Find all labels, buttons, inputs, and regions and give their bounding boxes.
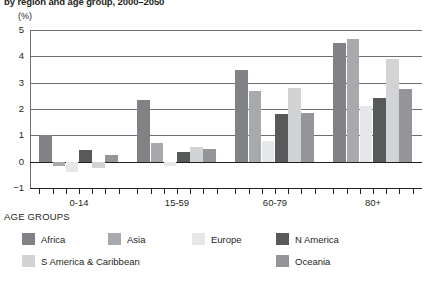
bar-europe-60-79: [262, 141, 275, 162]
x-axis-line: [30, 188, 422, 189]
x-axis-tick: [301, 189, 302, 194]
x-axis-tick: [203, 189, 204, 194]
bar-asia-15-59: [151, 143, 164, 161]
bar-africa-60-79: [235, 70, 248, 162]
legend-swatch-asia: [108, 233, 121, 245]
y-axis-tick-label: 1: [2, 129, 24, 140]
y-axis-tick-label: 5: [2, 24, 24, 35]
x-axis-tick: [288, 189, 289, 194]
x-axis-tick: [39, 189, 40, 194]
x-axis-tick: [66, 189, 67, 194]
bar-europe-80+: [360, 106, 373, 161]
x-axis-tick: [164, 189, 165, 194]
x-axis-tick: [347, 189, 348, 194]
legend-swatch-n_america: [276, 233, 289, 245]
legend-label-oceania: Oceania: [295, 256, 330, 267]
bar-s_america-60-79: [288, 88, 301, 162]
y-axis-tick-label: 2: [2, 103, 24, 114]
legend-label-asia: Asia: [127, 234, 145, 245]
legend-label-africa: Africa: [41, 234, 65, 245]
x-axis-tick: [386, 189, 387, 194]
bar-oceania-15-59: [203, 149, 216, 162]
bar-s_america-0-14: [92, 162, 105, 169]
zero-line: [30, 162, 422, 163]
x-axis-tick: [333, 189, 334, 194]
x-axis-tick: [275, 189, 276, 194]
x-axis-tick: [177, 189, 178, 194]
bar-africa-80+: [333, 43, 346, 162]
y-axis-unit-label: (%): [18, 11, 32, 21]
x-axis-group-label-15-59: 15-59: [165, 197, 189, 208]
bar-asia-0-14: [53, 162, 66, 166]
bar-n_america-60-79: [275, 114, 288, 161]
gridline: [30, 56, 422, 57]
legend-swatch-oceania: [276, 255, 289, 267]
x-axis-tick: [235, 189, 236, 194]
legend-item-s_america[interactable]: S America & Caribbean: [22, 255, 140, 267]
legend-label-s_america: S America & Caribbean: [41, 256, 140, 267]
x-axis-tick: [137, 189, 138, 194]
legend-swatch-africa: [22, 233, 35, 245]
x-axis-tick: [79, 189, 80, 194]
y-axis-tick-label: −1: [2, 182, 24, 193]
x-axis-tick: [53, 189, 54, 194]
x-axis-group-label-60-79: 60-79: [263, 197, 287, 208]
bar-s_america-80+: [386, 59, 399, 162]
bar-asia-80+: [347, 39, 360, 161]
legend-item-asia[interactable]: Asia: [108, 233, 145, 245]
legend-item-n_america[interactable]: N America: [276, 233, 339, 245]
x-axis-caption: AGE GROUPS: [4, 211, 70, 222]
legend-label-n_america: N America: [295, 234, 339, 245]
gridline: [30, 83, 422, 84]
bar-s_america-15-59: [190, 147, 203, 161]
x-axis-tick: [315, 189, 316, 194]
y-axis-tick-label: 3: [2, 77, 24, 88]
x-axis-group-label-80+: 80+: [365, 197, 381, 208]
x-axis-tick: [399, 189, 400, 194]
bar-n_america-0-14: [79, 150, 92, 162]
legend-swatch-europe: [192, 233, 205, 245]
x-axis-tick: [360, 189, 361, 194]
bar-oceania-60-79: [301, 113, 314, 162]
x-axis-tick: [119, 189, 120, 194]
x-axis-tick: [151, 189, 152, 194]
chart-figure: by region and age group, 2000–2050 (%) −…: [0, 0, 427, 281]
y-axis-tick-label: 4: [2, 50, 24, 61]
legend-item-africa[interactable]: Africa: [22, 233, 65, 245]
legend-label-europe: Europe: [211, 234, 242, 245]
bar-europe-15-59: [164, 162, 177, 166]
bar-oceania-80+: [399, 89, 412, 161]
chart-title: by region and age group, 2000–2050: [4, 0, 164, 7]
x-axis-tick: [217, 189, 218, 194]
x-axis-tick: [92, 189, 93, 194]
x-axis-tick: [262, 189, 263, 194]
bar-asia-60-79: [249, 91, 262, 162]
legend-item-europe[interactable]: Europe: [192, 233, 242, 245]
x-axis-tick: [373, 189, 374, 194]
bar-africa-15-59: [137, 100, 150, 162]
x-axis-tick: [413, 189, 414, 194]
legend-swatch-s_america: [22, 255, 35, 267]
plot-area: [30, 30, 422, 188]
bar-europe-0-14: [66, 162, 79, 173]
legend-item-oceania[interactable]: Oceania: [276, 255, 330, 267]
x-axis-tick: [105, 189, 106, 194]
gridline: [30, 30, 422, 31]
x-axis-tick: [190, 189, 191, 194]
x-axis-group-label-0-14: 0-14: [69, 197, 88, 208]
y-axis-tick-label: 0: [2, 156, 24, 167]
bar-n_america-15-59: [177, 152, 190, 161]
bar-africa-0-14: [39, 135, 52, 161]
bar-n_america-80+: [373, 98, 386, 161]
x-axis-tick: [249, 189, 250, 194]
bar-oceania-0-14: [105, 155, 118, 162]
